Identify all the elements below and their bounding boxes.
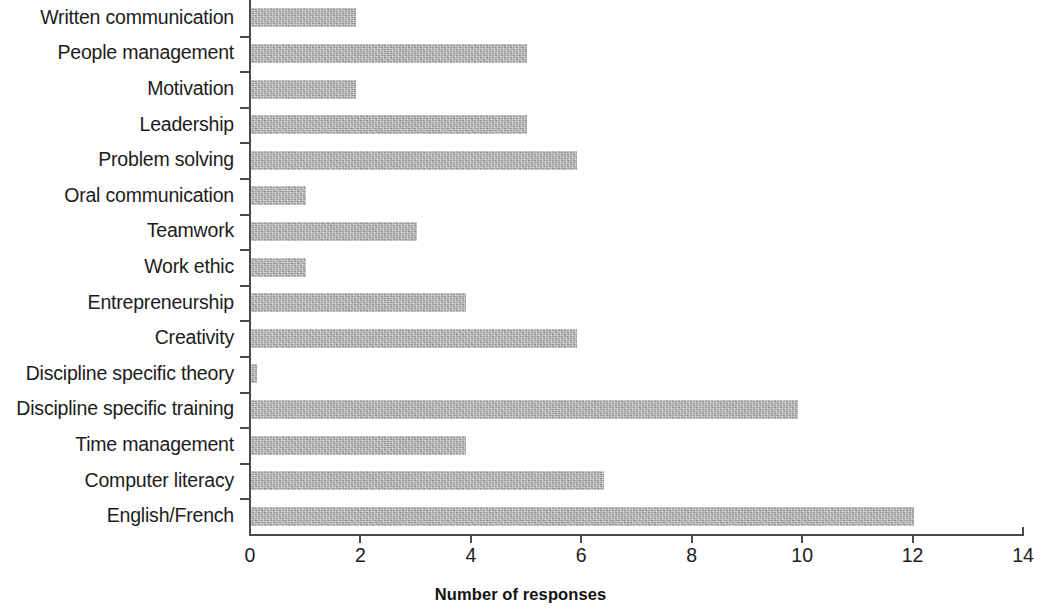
x-axis-line bbox=[249, 534, 1024, 536]
bar bbox=[251, 293, 466, 312]
x-axis-tick-label: 10 bbox=[791, 546, 813, 566]
x-axis-tick-label: 6 bbox=[576, 546, 587, 566]
x-axis-tick-label: 0 bbox=[245, 546, 256, 566]
y-axis-tick-label: Discipline specific theory bbox=[26, 364, 234, 384]
y-axis-tick-label: English/French bbox=[107, 506, 234, 526]
y-axis-tick-label: People management bbox=[57, 43, 234, 63]
plot-area bbox=[249, 0, 1041, 534]
bar bbox=[251, 222, 417, 241]
x-axis-tick-mark bbox=[912, 534, 914, 543]
y-axis-tick-mark bbox=[240, 214, 249, 216]
y-axis-tick-label: Problem solving bbox=[98, 150, 234, 170]
x-axis-tick-mark bbox=[580, 534, 582, 543]
y-axis-tick-label: Written communication bbox=[40, 8, 234, 28]
y-axis-tick-label: Work ethic bbox=[144, 257, 234, 277]
bar bbox=[251, 329, 577, 348]
x-axis-tick-label: 14 bbox=[1012, 546, 1034, 566]
y-axis-tick-mark bbox=[240, 107, 249, 109]
bar bbox=[251, 471, 604, 490]
bar bbox=[251, 186, 306, 205]
x-axis-tick-mark bbox=[249, 527, 251, 536]
y-axis-tick-label: Teamwork bbox=[147, 221, 234, 241]
x-axis-tick-mark bbox=[691, 534, 693, 543]
bar bbox=[251, 8, 356, 27]
bar-chart: Written communicationPeople managementMo… bbox=[0, 0, 1041, 611]
bar bbox=[251, 80, 356, 99]
y-axis-tick-mark bbox=[240, 392, 249, 394]
y-axis-tick-mark bbox=[240, 427, 249, 429]
y-axis-tick-label: Motivation bbox=[147, 79, 234, 99]
y-axis-tick-mark bbox=[240, 249, 249, 251]
y-axis-tick-mark bbox=[240, 178, 249, 180]
x-axis-tick-mark bbox=[470, 534, 472, 543]
y-axis-tick-mark bbox=[240, 285, 249, 287]
bar bbox=[251, 44, 527, 63]
x-axis-tick-label: 4 bbox=[465, 546, 476, 566]
bar bbox=[251, 436, 466, 455]
x-axis-title: Number of responses bbox=[0, 585, 1041, 604]
x-axis-tick-label: 12 bbox=[902, 546, 924, 566]
bar bbox=[251, 507, 914, 526]
x-axis-tick-mark bbox=[801, 534, 803, 543]
y-axis-tick-mark bbox=[240, 71, 249, 73]
y-axis-tick-label: Creativity bbox=[155, 328, 234, 348]
x-axis-tick-label: 8 bbox=[686, 546, 697, 566]
bar bbox=[251, 400, 798, 419]
y-axis-tick-label: Discipline specific training bbox=[16, 399, 234, 419]
bar bbox=[251, 115, 527, 134]
y-axis-tick-mark bbox=[240, 356, 249, 358]
y-axis-tick-label: Time management bbox=[75, 435, 234, 455]
x-axis-tick-mark bbox=[1022, 527, 1024, 536]
x-axis-tick-label: 2 bbox=[355, 546, 366, 566]
y-axis-category-labels: Written communicationPeople managementMo… bbox=[0, 0, 240, 534]
y-axis-tick-label: Entrepreneurship bbox=[88, 293, 234, 313]
y-axis-tick-label: Oral communication bbox=[64, 186, 234, 206]
bar bbox=[251, 151, 577, 170]
x-axis-tick-mark bbox=[359, 534, 361, 543]
y-axis-tick-mark bbox=[240, 36, 249, 38]
bar bbox=[251, 258, 306, 277]
y-axis-tick-mark bbox=[240, 142, 249, 144]
y-axis-tick-label: Leadership bbox=[140, 115, 235, 135]
y-axis-tick-label: Computer literacy bbox=[85, 471, 234, 491]
y-axis-tick-mark bbox=[240, 320, 249, 322]
bar bbox=[251, 364, 257, 383]
y-axis-tick-mark bbox=[240, 498, 249, 500]
y-axis-tick-mark bbox=[240, 463, 249, 465]
